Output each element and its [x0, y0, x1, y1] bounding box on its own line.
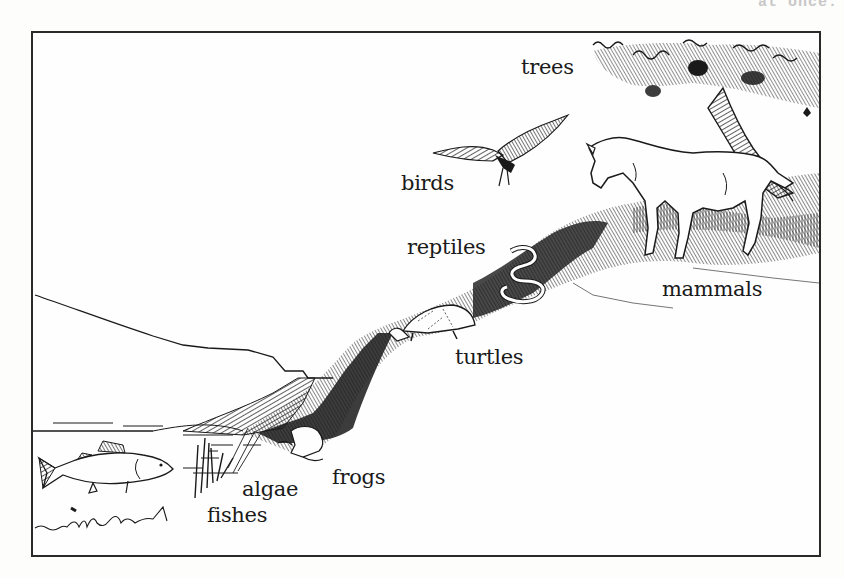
header-text-fragment: at once. — [758, 0, 838, 11]
label-algae: algae — [242, 479, 298, 500]
label-trees: trees — [521, 57, 574, 78]
label-turtles: turtles — [455, 347, 523, 368]
evolution-illustration-frame: trees birds reptiles mammals turtles fro… — [31, 31, 821, 557]
rising-hillside — [243, 173, 819, 453]
seabed-grass — [35, 507, 167, 530]
distant-hill-outline — [35, 295, 333, 378]
label-reptiles: reptiles — [407, 237, 486, 258]
label-mammals: mammals — [662, 279, 762, 300]
label-frogs: frogs — [332, 467, 385, 488]
label-fishes: fishes — [207, 505, 267, 526]
label-birds: birds — [401, 173, 454, 194]
fish-illustration — [39, 441, 173, 493]
